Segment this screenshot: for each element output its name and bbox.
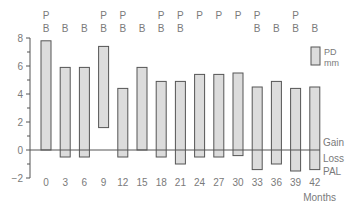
legend-swatch — [311, 47, 320, 65]
chart-canvas: −202468 03691215182124273033363942 PBBBP… — [0, 0, 355, 211]
x-tick-label: 3 — [62, 177, 68, 188]
bar-0 — [41, 41, 51, 150]
y-axis: −202468 — [12, 33, 30, 184]
bar-42 — [310, 87, 320, 170]
annotation-B: B — [139, 23, 146, 34]
x-tick-label: 24 — [194, 177, 206, 188]
annotation-B: B — [311, 23, 318, 34]
bar-24 — [195, 74, 205, 157]
bars — [41, 41, 320, 171]
bar-36 — [271, 81, 281, 164]
annotation-B: B — [177, 23, 184, 34]
annotation-P: P — [196, 10, 203, 21]
x-tick-label: 36 — [271, 177, 283, 188]
x-tick-label: 18 — [156, 177, 168, 188]
bar-6 — [79, 67, 89, 157]
loss-label: Loss — [323, 153, 344, 164]
bar-30 — [233, 73, 243, 156]
x-tick-label: 39 — [290, 177, 302, 188]
annotation-P: P — [43, 10, 50, 21]
x-tick-label: 42 — [309, 177, 321, 188]
legend-label-line2: mm — [324, 58, 339, 68]
bar-9 — [99, 46, 109, 127]
annotation-P: P — [119, 10, 126, 21]
x-tick-label: 33 — [252, 177, 264, 188]
bar-39 — [291, 88, 301, 171]
bar-21 — [175, 81, 185, 164]
bar-33 — [252, 87, 262, 170]
gain-label: Gain — [323, 137, 344, 148]
x-axis-label: Months — [303, 192, 336, 203]
bar-12 — [118, 88, 128, 157]
y-tick-label: 6 — [17, 61, 23, 72]
x-tick-label: 0 — [43, 177, 49, 188]
annotation-B: B — [43, 23, 50, 34]
x-tick-label: 6 — [82, 177, 88, 188]
pal-label: PAL — [323, 166, 342, 177]
annotation-P: P — [177, 10, 184, 21]
annotation-B: B — [254, 23, 261, 34]
annotation-B: B — [81, 23, 88, 34]
y-tick-label: 0 — [17, 145, 23, 156]
y-tick-label: −2 — [12, 173, 24, 184]
bar-27 — [214, 74, 224, 157]
annotation-P: P — [292, 10, 299, 21]
annotation-P: P — [235, 10, 242, 21]
annotation-P: P — [100, 10, 107, 21]
y-tick-label: 4 — [17, 89, 23, 100]
x-tick-label: 27 — [213, 177, 225, 188]
legend: PDmm — [311, 47, 339, 68]
bar-3 — [60, 67, 70, 157]
pd-pal-chart: −202468 03691215182124273033363942 PBBBP… — [0, 0, 355, 211]
y-tick-label: 2 — [17, 117, 23, 128]
annotation-B: B — [100, 23, 107, 34]
x-tick-labels: 03691215182124273033363942 — [43, 177, 321, 188]
annotation-B: B — [292, 23, 299, 34]
x-tick-label: 9 — [101, 177, 107, 188]
x-tick-label: 12 — [117, 177, 129, 188]
legend-label-line1: PD — [324, 47, 337, 57]
annotation-B: B — [119, 23, 126, 34]
annotation-P: P — [215, 10, 222, 21]
x-tick-label: 15 — [136, 177, 148, 188]
bar-15 — [137, 67, 147, 150]
x-tick-label: 30 — [232, 177, 244, 188]
annotation-B: B — [273, 23, 280, 34]
annotation-P: P — [158, 10, 165, 21]
annotation-P: P — [254, 10, 261, 21]
bar-18 — [156, 81, 166, 157]
annotation-B: B — [62, 23, 69, 34]
y-tick-label: 8 — [17, 33, 23, 44]
top-annotations: PBBBPBPBBPBPBPPPPBBPBB — [43, 10, 319, 34]
x-tick-label: 21 — [175, 177, 187, 188]
annotation-B: B — [158, 23, 165, 34]
